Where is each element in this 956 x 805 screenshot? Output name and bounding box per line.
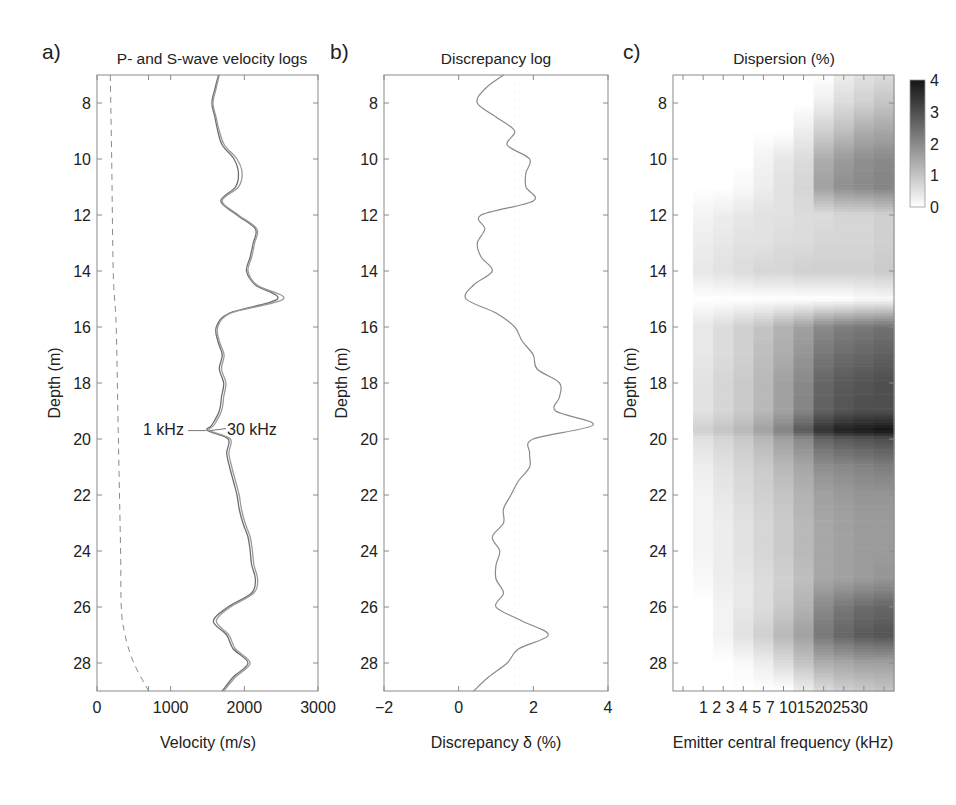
ytick-label: 18 — [649, 375, 667, 392]
panel-a-title: P- and S-wave velocity logs — [97, 50, 327, 68]
panel-b-ylabel: Depth (m) — [333, 323, 351, 443]
ytick-label: 28 — [360, 655, 378, 672]
colorbar-tick-label: 1 — [930, 167, 939, 184]
panel-a-letter: a) — [42, 40, 61, 64]
panel-b-xlabel: Discrepancy δ (%) — [384, 734, 608, 752]
ytick-label: 12 — [360, 207, 378, 224]
xtick-label: −2 — [375, 699, 393, 716]
s-wave-line — [110, 75, 148, 691]
ytick-label: 8 — [658, 95, 667, 112]
ytick-label: 10 — [73, 151, 91, 168]
xtick-label: 0 — [454, 699, 463, 716]
ytick-label: 26 — [360, 599, 378, 616]
ytick-label: 12 — [73, 207, 91, 224]
ytick-label: 24 — [73, 543, 91, 560]
ytick-label: 16 — [73, 319, 91, 336]
ytick-label: 14 — [360, 263, 378, 280]
ytick-label: 22 — [360, 487, 378, 504]
xtick-label: 2 — [529, 699, 538, 716]
xtick-label: 3000 — [300, 699, 336, 716]
panel-b-axes: 810121416182022242628−2024 — [360, 75, 612, 716]
ytick-label: 8 — [82, 95, 91, 112]
ytick-label: 28 — [73, 655, 91, 672]
ytick-label: 18 — [360, 375, 378, 392]
ytick-label: 14 — [649, 263, 667, 280]
p-wave-line — [209, 75, 284, 691]
ytick-label: 10 — [360, 151, 378, 168]
ytick-label: 8 — [369, 95, 378, 112]
xtick-labels: 1 2 3 4 5 7 1015202530 — [699, 699, 868, 716]
colorbar-tick-label: 4 — [930, 72, 939, 89]
figure: 8101214161820222426280100020003000810121… — [0, 0, 956, 805]
xtick-label: 4 — [604, 699, 613, 716]
annotation-1khz: 1 kHz — [143, 421, 184, 439]
p-wave-line — [207, 75, 278, 691]
panel-a-ylabel: Depth (m) — [46, 323, 64, 443]
ytick-label: 16 — [360, 319, 378, 336]
panel-c-title: Dispersion (%) — [673, 50, 895, 68]
ytick-label: 14 — [73, 263, 91, 280]
discrepancy-line — [465, 75, 593, 691]
colorbar-gradient — [910, 80, 925, 207]
ytick-label: 20 — [73, 431, 91, 448]
panel-a-xlabel: Velocity (m/s) — [97, 734, 319, 752]
panel-b-title: Discrepancy log — [384, 50, 608, 68]
ytick-label: 26 — [649, 599, 667, 616]
ytick-label: 22 — [73, 487, 91, 504]
ytick-label: 24 — [360, 543, 378, 560]
ytick-label: 16 — [649, 319, 667, 336]
annotation-30khz: 30 kHz — [227, 421, 277, 439]
panel-c-letter: c) — [623, 40, 641, 64]
colorbar-tick-label: 2 — [930, 136, 939, 153]
colorbar-tick-label: 3 — [930, 104, 939, 121]
xtick-label: 1000 — [153, 699, 189, 716]
annotation-leader-30khz — [210, 429, 226, 431]
ytick-label: 18 — [73, 375, 91, 392]
ytick-label: 12 — [649, 207, 667, 224]
colorbar-tick-label: 0 — [930, 199, 939, 216]
panel-c-ylabel: Depth (m) — [622, 323, 640, 443]
ytick-label: 10 — [649, 151, 667, 168]
panel-b-frame — [384, 75, 608, 691]
colorbar: 01234 — [910, 72, 939, 216]
xtick-label: 0 — [93, 699, 102, 716]
xtick-label: 2000 — [227, 699, 263, 716]
panel-c-xlabel: Emitter central frequency (kHz) — [648, 734, 918, 752]
ytick-label: 20 — [649, 431, 667, 448]
panel-a-frame — [97, 75, 318, 691]
ytick-label: 22 — [649, 487, 667, 504]
panel-a-axes: 8101214161820222426280100020003000 — [73, 75, 336, 716]
ytick-label: 26 — [73, 599, 91, 616]
panel-c-heatmap — [693, 75, 894, 692]
ytick-label: 20 — [360, 431, 378, 448]
ytick-label: 24 — [649, 543, 667, 560]
panel-b-letter: b) — [330, 40, 349, 64]
ytick-label: 28 — [649, 655, 667, 672]
